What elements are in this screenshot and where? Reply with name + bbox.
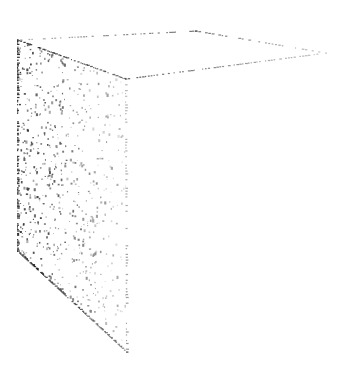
stippled-box-figure: [0, 0, 345, 376]
edges: [17, 31, 327, 353]
box-drawing: [0, 0, 345, 376]
side-face-stipple: [17, 38, 129, 355]
